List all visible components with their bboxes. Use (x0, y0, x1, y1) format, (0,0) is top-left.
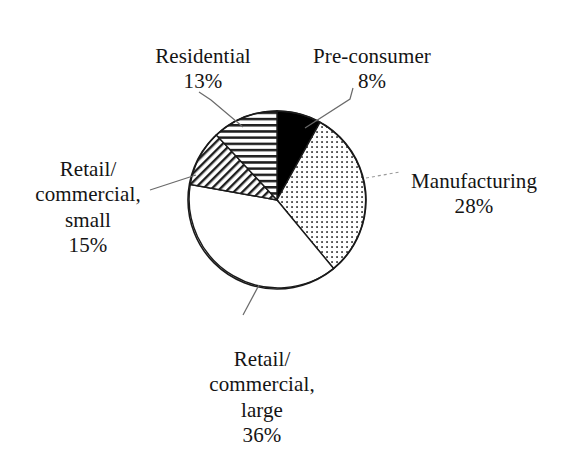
pie-label-pre-consumer-name: Pre-consumer (313, 44, 431, 68)
pie-label-residential-name: Residential (155, 44, 251, 68)
pie-label-retail-commercial-large-name: Retail/ commercial, large (209, 347, 314, 422)
pie-label-residential-percent: 13% (118, 69, 288, 95)
pie-label-manufacturing-name: Manufacturing (411, 169, 537, 193)
pie-label-retail-commercial-large: Retail/ commercial, large 36% (172, 321, 352, 450)
pie-label-residential: Residential 13% (118, 18, 288, 120)
pie-label-manufacturing-percent: 28% (385, 194, 563, 220)
pie-label-retail-commercial-small: Retail/ commercial, small 15% (8, 131, 168, 285)
pie-label-pre-consumer-percent: 8% (282, 69, 462, 95)
pie-label-manufacturing: Manufacturing 28% (385, 143, 563, 245)
pie-label-retail-commercial-small-name: Retail/ commercial, small (35, 157, 140, 232)
pie-label-retail-commercial-small-percent: 15% (8, 233, 168, 259)
pie-label-pre-consumer: Pre-consumer 8% (282, 18, 462, 120)
pie-label-retail-commercial-large-percent: 36% (172, 423, 352, 449)
leader-line-retail-large (243, 285, 259, 315)
pie-chart-figure: Residential 13% Pre-consumer 8% Manufact… (0, 0, 563, 450)
